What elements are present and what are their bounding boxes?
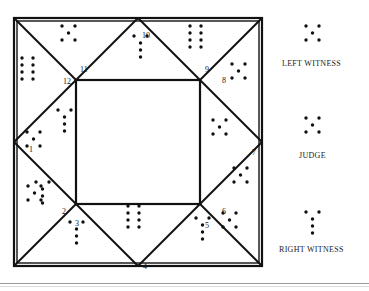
notch-right-upper bbox=[200, 80, 262, 142]
station-number-3: 3 bbox=[75, 219, 79, 228]
cluster-five-left-upper bbox=[56, 108, 72, 132]
legend-cluster-left-witness bbox=[304, 24, 320, 41]
seat-dot bbox=[199, 38, 202, 41]
seat-dot bbox=[75, 241, 78, 244]
seat-dot bbox=[317, 38, 320, 41]
cluster-five-left-lower bbox=[26, 184, 42, 201]
seat-dot bbox=[311, 231, 314, 234]
station-number-10: 10 bbox=[142, 31, 150, 40]
seat-dot bbox=[63, 122, 66, 125]
seat-dot bbox=[243, 62, 246, 65]
seat-dot bbox=[211, 118, 214, 121]
seat-dot bbox=[132, 34, 135, 37]
seat-dot bbox=[20, 56, 23, 59]
seat-dot bbox=[34, 180, 37, 183]
seat-dot bbox=[230, 76, 233, 79]
notch-bottom-right bbox=[138, 204, 200, 266]
notch-left-lower bbox=[14, 142, 76, 204]
legend-cluster-right-witness bbox=[304, 210, 320, 234]
seat-dot bbox=[31, 77, 34, 80]
inner-square-outline bbox=[76, 80, 200, 204]
seat-dot bbox=[73, 38, 76, 41]
seat-dot bbox=[126, 211, 129, 214]
seat-dot bbox=[228, 218, 231, 221]
seat-dot bbox=[232, 180, 235, 183]
seat-dot bbox=[243, 76, 246, 79]
seat-dot bbox=[137, 225, 140, 228]
legend-right-witness-label: RIGHT WITNESS bbox=[279, 245, 344, 254]
seat-dot bbox=[201, 223, 204, 226]
seat-dot bbox=[234, 211, 237, 214]
seat-dot bbox=[304, 210, 307, 213]
seat-dot bbox=[201, 230, 204, 233]
station-number-11: 11 bbox=[80, 65, 88, 74]
station-number-2: 2 bbox=[62, 207, 66, 216]
seat-dot bbox=[75, 234, 78, 237]
seat-dot bbox=[317, 210, 320, 213]
seat-dot bbox=[26, 184, 29, 187]
seat-dot bbox=[60, 24, 63, 27]
seat-dot bbox=[311, 31, 314, 34]
seat-dot bbox=[137, 211, 140, 214]
station-number-12: 12 bbox=[63, 77, 71, 86]
seat-dot bbox=[60, 38, 63, 41]
seat-dot bbox=[245, 166, 248, 169]
seat-dot bbox=[41, 187, 44, 190]
seat-dot bbox=[63, 115, 66, 118]
seat-dot bbox=[139, 41, 142, 44]
seat-dot bbox=[188, 45, 191, 48]
seat-dot bbox=[304, 24, 307, 27]
seat-dot bbox=[239, 173, 242, 176]
legend-cluster-judge bbox=[304, 116, 320, 133]
seat-dot bbox=[304, 130, 307, 133]
seat-dot bbox=[81, 220, 84, 223]
seat-dot bbox=[188, 38, 191, 41]
seat-dot bbox=[232, 166, 235, 169]
seat-dot bbox=[31, 70, 34, 73]
seat-dot bbox=[31, 56, 34, 59]
seat-dot bbox=[199, 24, 202, 27]
cluster-five-top-left bbox=[60, 24, 76, 41]
seat-dot bbox=[39, 198, 42, 201]
seat-dot bbox=[41, 194, 44, 197]
frame-layer bbox=[14, 18, 262, 266]
seat-dot bbox=[224, 118, 227, 121]
seat-dot bbox=[199, 45, 202, 48]
station-number-7: 7 bbox=[252, 148, 256, 157]
seat-dot bbox=[39, 184, 42, 187]
seat-dot bbox=[73, 24, 76, 27]
station-number-9: 9 bbox=[205, 65, 209, 74]
diagonal-bottom-left bbox=[14, 204, 76, 266]
seat-dot bbox=[20, 77, 23, 80]
seat-dot bbox=[304, 116, 307, 119]
seat-dot bbox=[32, 137, 35, 140]
cluster-five-left-mid bbox=[25, 130, 41, 147]
seat-dot bbox=[63, 129, 66, 132]
seat-dot bbox=[207, 216, 210, 219]
notch-left-upper bbox=[14, 80, 76, 142]
seat-dot bbox=[224, 132, 227, 135]
seat-dot bbox=[218, 125, 221, 128]
seat-dot bbox=[311, 217, 314, 220]
seat-dot bbox=[126, 225, 129, 228]
diagonal-bottom-right bbox=[200, 204, 262, 266]
seat-dot bbox=[126, 218, 129, 221]
seat-dot bbox=[188, 24, 191, 27]
seat-dot bbox=[38, 144, 41, 147]
seat-dot bbox=[311, 224, 314, 227]
diagonal-top-right bbox=[200, 18, 262, 80]
legend-left-witness-label: LEFT WITNESS bbox=[282, 59, 341, 68]
seat-dot bbox=[201, 237, 204, 240]
seat-dot bbox=[31, 63, 34, 66]
seat-dot bbox=[194, 216, 197, 219]
seat-dot bbox=[304, 38, 307, 41]
station-number-5: 5 bbox=[205, 221, 209, 230]
seat-dot bbox=[126, 204, 129, 207]
station-number-8: 8 bbox=[222, 76, 226, 85]
cluster-five-right-edge bbox=[232, 166, 248, 183]
seat-dot bbox=[317, 24, 320, 27]
seat-dot bbox=[38, 130, 41, 133]
seat-dot bbox=[25, 130, 28, 133]
cluster-five-right-mid bbox=[211, 118, 227, 135]
seat-dot bbox=[211, 132, 214, 135]
